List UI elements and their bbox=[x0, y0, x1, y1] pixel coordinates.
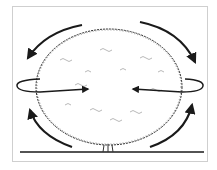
foliage-texture bbox=[60, 49, 164, 122]
shrub-diagram bbox=[0, 0, 217, 170]
bottom-right-arc-arrow bbox=[150, 105, 192, 147]
shrub-canopy bbox=[36, 29, 182, 145]
bottom-left-arc-arrow bbox=[30, 110, 72, 147]
top-right-arc-arrow bbox=[140, 22, 195, 62]
top-left-arc-arrow bbox=[28, 25, 82, 58]
right-loop-arrow bbox=[133, 79, 203, 92]
left-loop-arrow bbox=[17, 79, 88, 92]
